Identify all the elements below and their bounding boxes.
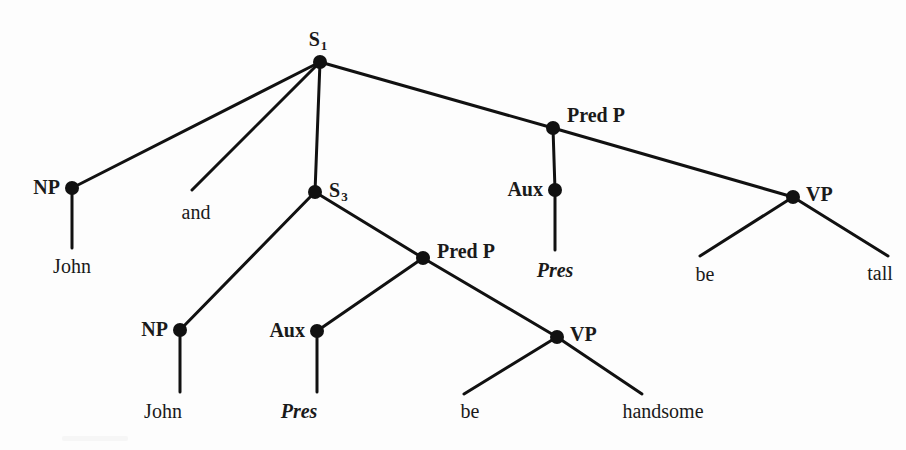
tree-branch bbox=[464, 337, 557, 394]
scan-artifact bbox=[62, 436, 128, 441]
tree-branch bbox=[72, 62, 320, 188]
node-label-np_low: NP bbox=[141, 319, 168, 339]
tree-node-vp_top bbox=[786, 190, 800, 204]
node-label-s3: S3 bbox=[329, 180, 348, 203]
terminal-tall_top: tall bbox=[867, 263, 893, 283]
edge-layer bbox=[72, 62, 888, 394]
node-label-vp_low: VP bbox=[570, 324, 597, 344]
tree-node-predp_low bbox=[416, 251, 430, 265]
node-label-predp_top: Pred P bbox=[567, 105, 625, 125]
syntax-tree-svg bbox=[0, 0, 906, 450]
tree-node-aux_top bbox=[548, 183, 562, 197]
terminal-be_low: be bbox=[461, 401, 480, 421]
tree-node-s1 bbox=[313, 55, 327, 69]
tree-branch bbox=[317, 258, 423, 331]
tree-node-np_low bbox=[173, 323, 187, 337]
terminal-john_top: John bbox=[53, 256, 91, 276]
tree-node-predp_top bbox=[546, 121, 560, 135]
node-label-np_top: NP bbox=[33, 177, 60, 197]
tree-branch bbox=[553, 128, 555, 190]
node-subscript-s1: 1 bbox=[320, 37, 328, 52]
terminal-pres_top: Pres bbox=[537, 260, 574, 280]
tree-node-np_top bbox=[65, 181, 79, 195]
figure-canvas: S1NPS3Pred PAuxVPNPPred PAuxVPJohnPresbe… bbox=[0, 0, 906, 450]
terminal-handsome: handsome bbox=[622, 401, 703, 421]
node-layer bbox=[65, 55, 800, 344]
terminal-john_low: John bbox=[144, 401, 182, 421]
tree-node-vp_low bbox=[550, 330, 564, 344]
tree-node-aux_low bbox=[310, 324, 324, 338]
node-label-vp_top: VP bbox=[806, 184, 833, 204]
tree-branch bbox=[700, 197, 793, 256]
tree-branch bbox=[553, 128, 793, 197]
node-label-aux_low: Aux bbox=[269, 320, 305, 340]
terminal-pres_low: Pres bbox=[281, 401, 318, 421]
tree-branch bbox=[793, 197, 888, 256]
conjunction-and: and bbox=[182, 202, 211, 222]
terminal-be_top: be bbox=[696, 264, 715, 284]
tree-branch bbox=[557, 337, 642, 394]
node-subscript-s3: 3 bbox=[340, 188, 348, 203]
node-label-predp_low: Pred P bbox=[437, 241, 495, 261]
tree-branch bbox=[320, 62, 553, 128]
tree-branch bbox=[192, 62, 320, 190]
node-label-s1: S1 bbox=[309, 29, 328, 52]
node-label-aux_top: Aux bbox=[507, 179, 543, 199]
tree-node-s3 bbox=[308, 185, 322, 199]
tree-branch bbox=[315, 62, 320, 192]
